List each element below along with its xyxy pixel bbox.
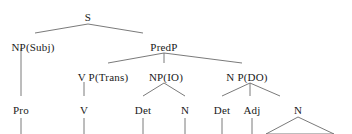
n2-triangle: [266, 117, 334, 134]
tree-edge-np_io-to-n1: [164, 83, 185, 96]
tree-node-np_do: N P(DO): [226, 72, 267, 83]
tree-node-pro: Pro: [13, 105, 29, 116]
tree-node-det2: Det: [214, 105, 230, 116]
tree-node-adj: Adj: [243, 105, 260, 116]
tree-node-det1: Det: [135, 105, 151, 116]
tree-node-predp: PredP: [150, 42, 177, 53]
tree-node-v: V: [80, 105, 88, 116]
tree-node-np_subj: NP(Subj): [11, 42, 54, 53]
triangles-group: [266, 117, 334, 134]
tree-node-np_io: NP(IO): [149, 72, 183, 83]
tree-node-n2: N: [294, 105, 302, 116]
tree-edge-predp-to-np_do: [164, 53, 242, 63]
tree-edge-np_io-to-det1: [143, 83, 164, 96]
tree-node-n1: N: [181, 105, 189, 116]
tree-node-s: S: [85, 12, 91, 23]
tree-node-vp_trans: V P(Trans): [78, 72, 129, 83]
tree-edge-s-to-np_subj: [35, 24, 88, 33]
syntax-tree-diagram: SNP(Subj)PredPV P(Trans)NP(IO)N P(DO)Pro…: [0, 0, 352, 134]
tree-edge-s-to-predp: [88, 24, 143, 33]
tree-edge-predp-to-vp_trans: [108, 53, 164, 63]
tree-edge-np_do-to-det2: [222, 83, 250, 96]
tree-edge-np_do-to-n2: [250, 83, 280, 96]
